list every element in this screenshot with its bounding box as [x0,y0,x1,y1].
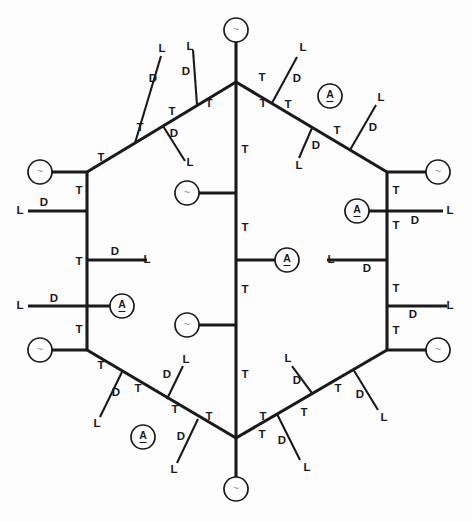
label-apex-right-t: T [259,97,266,109]
label-t-b-bl-3: T [171,403,178,415]
label-d-b-tl-1: D [149,72,157,84]
label-t-b-tr-2: T [284,98,291,110]
label-l-b-bl-3: L [170,463,177,475]
tilde-glyph: ~ [233,482,239,494]
label-d-b-bl-2: D [163,368,171,380]
tilde-glyph: ~ [435,165,441,177]
label-t-c-l-dl: T [75,255,82,267]
label-t-c-ur-a-l: T [392,219,399,231]
label-l-b-br-3: L [380,411,387,423]
tilde-glyph: ~ [184,186,190,198]
label-t-b-bl-2: T [134,382,141,394]
label-d-b-tr-2: D [312,139,320,151]
label-d-b-bl-1: D [112,386,120,398]
label-t-b-tr-1: T [258,71,265,83]
label-d-c-r-dl2: D [409,308,417,320]
node-n-center-upper[interactable]: ~ [175,181,199,205]
amine-glyph: A [326,88,334,100]
label-d-b-tl-2: D [170,127,178,139]
node-n-left-a[interactable]: A [110,294,134,318]
label-t-c-center-lo: T [241,283,248,295]
label-d-c-r-dl: D [363,262,371,274]
label-l-c-l-dl: L [143,253,150,265]
node-n-top[interactable]: ~ [224,18,248,42]
amine-glyph: A [353,203,361,215]
node-n-lower-left[interactable]: ~ [28,338,52,362]
label-spine-upper-t: T [241,143,248,155]
label-l-c-ur-a-l: L [446,204,453,216]
label-spine-lower-t: T [241,368,248,380]
label-base-right-t: T [259,410,266,422]
tilde-glyph: ~ [233,23,239,35]
label-d-b-tr-3: D [369,121,377,133]
label-t-b-tr-3: T [333,124,340,136]
label-d-c-ul-dl: D [40,196,48,208]
label-t-c-r-dl2: T [392,282,399,294]
label-l-b-br-1: L [303,461,310,473]
label-l-b-br-2: L [284,352,291,364]
amine-glyph: A [283,252,291,264]
branch-layer [100,50,378,463]
label-apex-left-t: T [205,97,212,109]
node-n-center-lower[interactable]: ~ [175,313,199,337]
structure-diagram: TDLDLTDLTTDLTDLDLTTTTDLTDLTDLTDLTDLTDLTD… [0,0,472,521]
label-d-b-br-3: D [356,388,364,400]
node-n-bottom-left-a[interactable]: A [131,425,155,449]
label-t-b-tl-3: T [168,105,175,117]
label-l-b-tr-3: L [377,91,384,103]
branch-b-tl-3 [193,50,197,105]
label-d-c-l-a: D [50,292,58,304]
label-d-b-br-2: D [293,374,301,386]
label-d-b-br-1: D [278,434,286,446]
tilde-glyph: ~ [184,318,190,330]
tilde-glyph: ~ [37,343,43,355]
label-l-c-r-dl2: L [446,299,453,311]
diagram-canvas: TDLDLTDLTTDLTDLDLTTTTDLTDLTDLTDLTDLTDLTD… [0,0,472,521]
label-t-c-ul-tilde: T [75,184,82,196]
label-l-b-bl-1: L [93,417,100,429]
node-n-right-a[interactable]: A [345,199,369,223]
amine-glyph: A [139,429,147,441]
label-t-b-br-3: T [334,382,341,394]
label-d-c-ur-a-l: D [411,214,419,226]
label-t-c-lr-tilde: T [392,324,399,336]
node-n-upper-right[interactable]: ~ [426,160,450,184]
label-base-left-t: T [205,410,212,422]
label-l-b-tr-1: L [299,41,306,53]
node-n-lower-right[interactable]: ~ [426,338,450,362]
label-l-c-r-dl: L [327,253,334,265]
label-d-b-bl-3: D [177,430,185,442]
label-l-b-tl-1: L [158,42,165,54]
label-l-c-ul-dl: L [16,204,23,216]
label-t-b-tl-1: T [97,151,104,163]
label-d-c-l-dl: D [111,245,119,257]
tilde-glyph: ~ [435,343,441,355]
node-n-center-mid-a[interactable]: A [275,248,299,272]
label-l-b-tr-2: L [295,159,302,171]
node-n-bottom[interactable]: ~ [224,477,248,501]
label-d-b-tr-1: D [293,72,301,84]
label-t-b-br-2: T [300,406,307,418]
label-d-b-tl-3: D [182,65,190,77]
label-l-b-bl-2: L [182,353,189,365]
label-t-c-ur-tilde: T [392,184,399,196]
label-t-c-center-up: T [241,221,248,233]
amine-glyph: A [118,298,126,310]
label-l-c-l-a: L [16,299,23,311]
label-t-b-tl-2: T [136,121,143,133]
bond-edge-top-left [87,82,236,172]
label-t-b-bl-1: T [97,359,104,371]
node-n-upper-left[interactable]: ~ [28,160,52,184]
branch-b-tr-2 [299,128,312,158]
tilde-glyph: ~ [37,165,43,177]
bond-edge-bottom-right [236,350,387,438]
label-t-c-ll-tilde: T [75,323,82,335]
label-t-b-br-1: T [258,428,265,440]
label-l-b-tl-3: L [186,40,193,52]
label-l-b-tl-2: L [186,156,193,168]
node-n-top-right-a[interactable]: A [318,84,342,108]
bond-edge-bottom-left [87,350,236,438]
